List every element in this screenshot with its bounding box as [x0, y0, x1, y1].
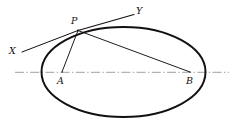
- label-ray-X: X: [9, 46, 16, 56]
- point-A-dot: [61, 71, 62, 72]
- label-point-P: P: [71, 16, 77, 26]
- geometry-figure: P A B X Y: [0, 0, 242, 129]
- tangent-group: [22, 15, 134, 53]
- label-point-B: B: [186, 76, 193, 86]
- figure-canvas: [0, 0, 242, 129]
- chord-group: [62, 31, 190, 73]
- segment-PA: [62, 31, 78, 73]
- point-B-dot: [189, 71, 190, 72]
- point-P-dot: [77, 30, 79, 32]
- tangent-ray-PX: [22, 31, 78, 53]
- label-ray-Y: Y: [136, 6, 142, 16]
- label-point-A: A: [57, 76, 64, 86]
